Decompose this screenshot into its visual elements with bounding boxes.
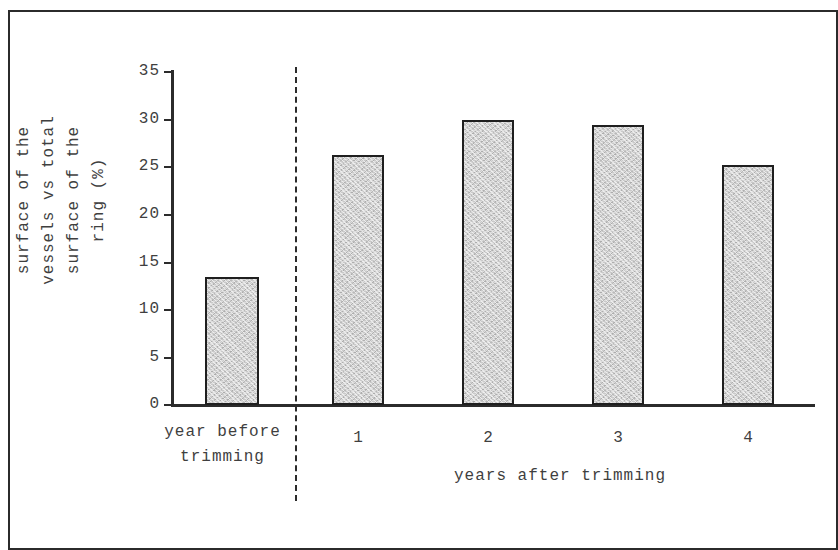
y-tick-10 — [164, 309, 172, 311]
bar-year-before-trimming — [205, 277, 259, 405]
y-tick-35 — [164, 71, 172, 73]
x-category-label-3: 3 — [578, 428, 658, 448]
y-tick-5 — [164, 357, 172, 359]
y-tick-label-30: 30 — [124, 111, 160, 127]
y-tick-30 — [164, 119, 172, 121]
y-tick-25 — [164, 166, 172, 168]
y-axis-title: surface of the vessels vs total surface … — [12, 35, 112, 365]
y-tick-20 — [164, 214, 172, 216]
bar-year-2 — [462, 120, 514, 405]
y-tick-label-25: 25 — [124, 158, 160, 174]
group-separator-dashed-line — [295, 67, 297, 501]
y-tick-label-0-wrap: 0 — [118, 396, 160, 412]
x-axis-title: years after trimming — [310, 466, 810, 486]
y-tick-label-5: 5 — [124, 349, 160, 365]
bar-year-3 — [592, 125, 644, 405]
y-tick-0 — [164, 404, 172, 406]
y-tick-label-15: 15 — [124, 254, 160, 270]
y-tick-label-10-wrap: 10 — [118, 301, 160, 317]
y-tick-label-25-wrap: 25 — [118, 158, 160, 174]
x-category-label-year-before-trimming: year before trimming — [150, 420, 295, 470]
y-tick-label-30-wrap: 30 — [118, 111, 160, 127]
y-tick-label-35: 35 — [124, 63, 160, 79]
y-tick-15 — [164, 262, 172, 264]
y-tick-label-10: 10 — [124, 301, 160, 317]
y-tick-label-35-wrap: 35 — [118, 63, 160, 79]
y-tick-label-15-wrap: 15 — [118, 254, 160, 270]
y-tick-label-0: 0 — [124, 396, 160, 412]
x-category-label-4: 4 — [708, 428, 788, 448]
bar-year-1 — [332, 155, 384, 405]
x-category-label-1: 1 — [318, 428, 398, 448]
y-tick-label-5-wrap: 5 — [118, 349, 160, 365]
y-tick-label-20-wrap: 20 — [118, 206, 160, 222]
bar-year-4 — [722, 165, 774, 405]
x-category-label-2: 2 — [448, 428, 528, 448]
y-tick-label-20: 20 — [124, 206, 160, 222]
